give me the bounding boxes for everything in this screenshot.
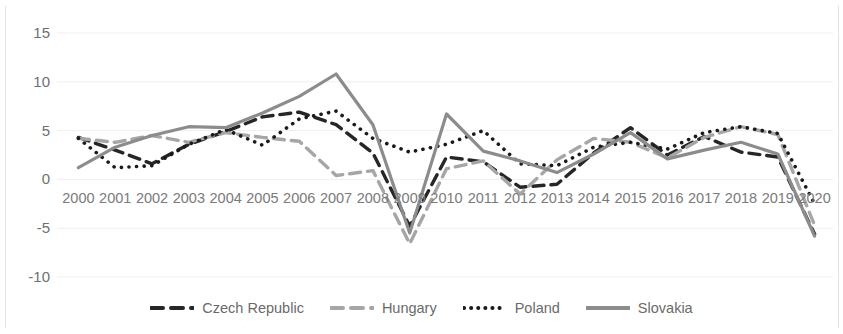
series-line-slovakia [78,74,814,236]
legend-item-label: Poland [515,300,560,316]
x-axis-tick-label: 2003 [169,191,209,206]
x-axis-tick-label: 2012 [500,191,540,206]
legend-item-hungary[interactable]: Hungary [330,300,437,316]
legend-item-label: Slovakia [638,300,693,316]
x-axis-tick-label: 2002 [132,191,172,206]
x-axis-tick-label: 2019 [758,191,798,206]
x-axis-tick-label: 2016 [647,191,687,206]
y-axis-tick-label: -5 [6,220,50,235]
x-axis-tick-label: 2005 [242,191,282,206]
legend-item-label: Hungary [382,300,437,316]
x-axis-tick-label: 2000 [58,191,98,206]
x-axis-tick-label: 2007 [316,191,356,206]
x-axis-tick-label: 2001 [95,191,135,206]
y-axis-tick-label: 10 [6,74,50,89]
x-axis-tick-label: 2009 [390,191,430,206]
solid-line-swatch [586,301,630,315]
x-axis-tick-label: 2004 [206,191,246,206]
x-axis-tick-label: 2006 [279,191,319,206]
legend-item-slovakia[interactable]: Slovakia [586,300,693,316]
x-axis-tick-label: 2018 [721,191,761,206]
y-axis-tick-label: 5 [6,123,50,138]
x-axis-tick-label: 2014 [574,191,614,206]
x-axis-tick-label: 2008 [353,191,393,206]
dashed-line-swatch [330,301,374,315]
chart-legend: Czech RepublicHungaryPolandSlovakia [0,300,843,316]
dotted-line-swatch [463,301,507,315]
y-axis-tick-label: 0 [6,171,50,186]
x-axis-tick-label: 2011 [463,191,503,206]
line-chart: 151050-5-10 2000200120022003200420052006… [0,0,843,334]
y-axis-tick-label: -10 [6,269,50,284]
legend-item-label: Czech Republic [202,300,304,316]
y-axis-tick-label: 15 [6,25,50,40]
x-axis-tick-label: 2015 [611,191,651,206]
plot-area [0,0,843,334]
x-axis-tick-label: 2013 [537,191,577,206]
legend-item-czech-republic[interactable]: Czech Republic [150,300,304,316]
dashed-line-swatch [150,301,194,315]
x-axis-tick-label: 2020 [795,191,835,206]
legend-item-poland[interactable]: Poland [463,300,560,316]
x-axis-tick-label: 2017 [684,191,724,206]
x-axis-tick-label: 2010 [427,191,467,206]
